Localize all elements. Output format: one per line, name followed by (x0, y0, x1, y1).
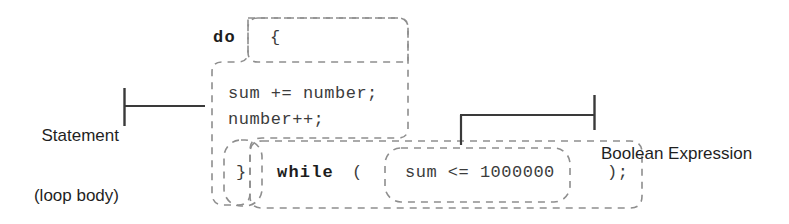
code-body-line-1: sum += number; (228, 84, 378, 103)
code-body-line-2: number++; (228, 110, 324, 129)
code-while-keyword: while (277, 163, 334, 182)
diagram-canvas: do { sum += number; number++; } while ( … (0, 0, 789, 224)
annotation-statement-loop-body: Statement (loop body) (0, 86, 119, 224)
annotation-statement-line-2: (loop body) (0, 186, 119, 206)
statement-bracket (125, 88, 206, 126)
code-open-paren: ( (352, 163, 363, 182)
boolean-expression-bracket (460, 95, 595, 145)
code-open-brace: { (270, 28, 281, 47)
code-do-keyword: do (213, 28, 236, 47)
code-close-brace: } (236, 163, 247, 182)
annotation-boolean-line-1: Boolean Expression (601, 144, 752, 164)
code-condition: sum <= 1000000 (405, 163, 555, 182)
annotation-statement-line-1: Statement (0, 126, 119, 146)
annotation-boolean-expression: Boolean Expression (601, 104, 752, 204)
